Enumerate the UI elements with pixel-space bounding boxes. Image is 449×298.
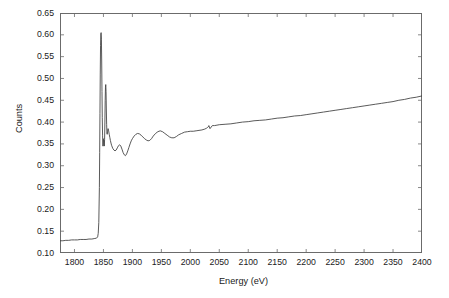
figure-canvas: 0.100.150.200.250.300.350.400.450.500.55… xyxy=(0,0,449,298)
x-axis-label-text: Energy (eV) xyxy=(181,276,268,286)
plot-area xyxy=(60,13,422,253)
y-tick-label: 0.35 xyxy=(8,139,54,148)
y-tick-label: 0.50 xyxy=(8,74,54,83)
spectrum-line xyxy=(60,33,422,241)
y-tick-label: 0.25 xyxy=(8,183,54,192)
y-tick-label: 0.60 xyxy=(8,30,54,39)
spectrum-svg xyxy=(60,13,422,253)
y-tick-label: 0.20 xyxy=(8,205,54,214)
x-tick-label: 2400 xyxy=(400,258,444,267)
y-tick-label: 0.65 xyxy=(8,9,54,18)
y-tick-label: 0.10 xyxy=(8,249,54,258)
y-axis-label-text: Counts xyxy=(14,104,24,133)
y-tick-label: 0.55 xyxy=(8,52,54,61)
y-tick-label: 0.15 xyxy=(8,227,54,236)
x-axis-label: Energy (eV) xyxy=(0,276,449,286)
y-tick-label: 0.30 xyxy=(8,161,54,170)
